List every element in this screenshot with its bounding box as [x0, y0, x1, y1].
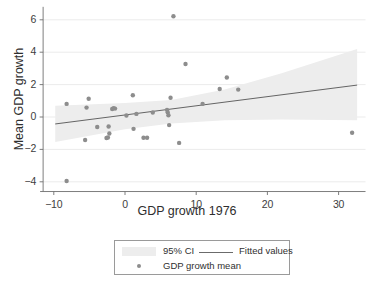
y-tick-label: −4	[12, 175, 36, 187]
y-axis-title: Mean GDP growth	[12, 19, 26, 179]
x-tick-label: 0	[110, 198, 140, 210]
x-tick-label: 30	[324, 198, 354, 210]
y-tick-label: 6	[12, 13, 36, 25]
legend-label-scatter: GDP growth mean	[163, 258, 241, 273]
y-tick-label: 4	[12, 45, 36, 57]
y-tick-label: 0	[12, 110, 36, 122]
confidence-interval-band	[55, 49, 357, 142]
chart-legend: 95% CI Fitted values GDP growth mean	[114, 240, 290, 275]
y-tick-label: 2	[12, 78, 36, 90]
scatter-plot-figure: GDP growth 1976 Mean GDP growth −4−20246…	[0, 0, 374, 286]
ci-band-swatch	[122, 247, 156, 256]
legend-label-ci: 95% CI	[163, 243, 194, 258]
legend-row-bottom: GDP growth mean	[115, 258, 289, 273]
x-tick-label: 20	[252, 198, 282, 210]
scatter-dot-swatch	[137, 264, 141, 268]
x-tick-label: 10	[181, 198, 211, 210]
y-tick-label: −2	[12, 142, 36, 154]
legend-row-top: 95% CI Fitted values	[115, 243, 289, 258]
legend-label-fitted: Fitted values	[239, 243, 293, 258]
fitted-line-swatch	[199, 252, 233, 253]
x-tick-label: −10	[39, 198, 69, 210]
